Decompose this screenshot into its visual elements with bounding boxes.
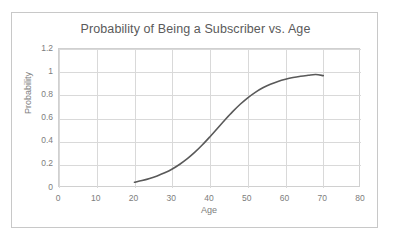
x-axis-tick-label: 50 xyxy=(232,193,262,203)
y-axis-tick-label: 0.8 xyxy=(13,89,53,99)
chart-title: Probability of Being a Subscriber vs. Ag… xyxy=(12,22,379,36)
y-axis-tick-label: 0.6 xyxy=(13,112,53,122)
y-axis-title: Probability xyxy=(23,53,33,133)
x-axis-tick-label: 80 xyxy=(345,193,375,203)
x-axis-tick-label: 20 xyxy=(119,193,149,203)
x-axis-tick-label: 60 xyxy=(270,193,300,203)
plot-area xyxy=(58,48,360,187)
y-axis-tick-label: 0.4 xyxy=(13,135,53,145)
x-axis-tick-label: 70 xyxy=(307,193,337,203)
series-line xyxy=(135,74,324,182)
x-axis-tick-label: 10 xyxy=(81,193,111,203)
y-axis-tick-label: 1.2 xyxy=(13,43,53,53)
x-axis-tick-label: 0 xyxy=(43,193,73,203)
x-axis-tick-label: 40 xyxy=(194,193,224,203)
x-axis-tick-label: 30 xyxy=(156,193,186,203)
y-axis-tick-label: 0.2 xyxy=(13,158,53,168)
y-axis-tick-label: 0 xyxy=(13,182,53,192)
x-axis-title: Age xyxy=(58,205,360,215)
y-axis-tick-label: 1 xyxy=(13,66,53,76)
chart-container: Probability of Being a Subscriber vs. Ag… xyxy=(11,12,378,228)
chart-plot-svg xyxy=(59,49,361,188)
